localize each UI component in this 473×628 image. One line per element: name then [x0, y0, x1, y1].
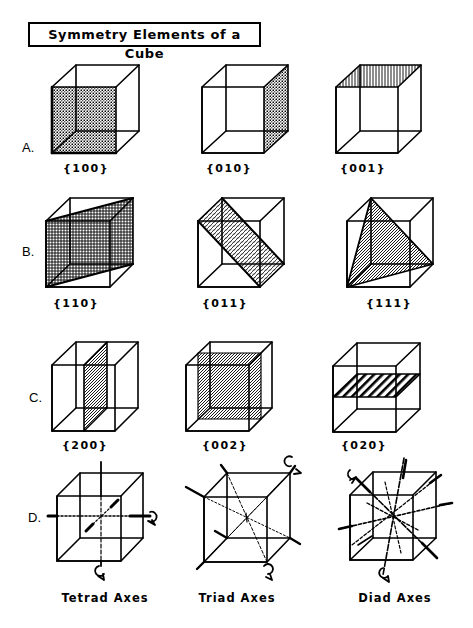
- rotation-arrow-icon: [95, 566, 104, 580]
- rotation-arrow-icon: [264, 564, 273, 580]
- index-label-020: {020}: [341, 439, 387, 452]
- label-diad-axes: Diad Axes: [358, 591, 431, 605]
- rotation-arrow-icon: [284, 456, 301, 474]
- rotation-arrow-icon: [348, 470, 356, 483]
- cube-symmetry-figure: [0, 0, 473, 628]
- index-label-110: {110}: [53, 297, 99, 310]
- row-label-c: C.: [29, 390, 42, 405]
- cube-110: [46, 198, 133, 287]
- index-label-011: {011}: [202, 297, 248, 310]
- cube-020: [333, 343, 420, 432]
- cube-002: [186, 342, 272, 431]
- cube-diad-axes: [339, 458, 452, 582]
- label-triad-axes: Triad Axes: [198, 591, 275, 605]
- index-label-002: {002}: [202, 439, 248, 452]
- cube-100: [52, 65, 139, 153]
- cube-200: [52, 342, 138, 431]
- cube-111: [347, 198, 433, 287]
- index-label-200: {200}: [62, 439, 108, 452]
- row-label-a: A.: [22, 140, 34, 155]
- cube-011: [198, 198, 284, 287]
- index-label-100: {100}: [63, 162, 109, 175]
- cube-tetrad-axes: [48, 462, 157, 580]
- index-label-111: {111}: [366, 297, 412, 310]
- rotation-arrow-icon: [148, 512, 157, 525]
- label-tetrad-axes: Tetrad Axes: [61, 591, 148, 605]
- index-label-001: {001}: [340, 162, 386, 175]
- cube-010: [202, 65, 288, 153]
- row-label-d: D.: [28, 510, 41, 525]
- row-label-b: B.: [22, 244, 34, 259]
- cube-001: [336, 65, 421, 153]
- cube-triad-axes: [186, 456, 301, 580]
- index-label-010: {010}: [206, 162, 252, 175]
